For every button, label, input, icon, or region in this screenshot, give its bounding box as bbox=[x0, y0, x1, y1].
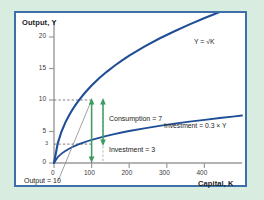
figure-background: Output, Y 20 15 10 5 0 3 0 100 200 300 4… bbox=[0, 0, 264, 200]
y-tick-15: 15 bbox=[28, 65, 46, 72]
y-tick-5: 5 bbox=[28, 128, 46, 135]
x-tick-200: 200 bbox=[122, 170, 133, 177]
x-axis-ticks bbox=[54, 163, 204, 168]
production-function-label: Y = √K bbox=[194, 39, 214, 46]
y-axis-title: Output, Y bbox=[22, 19, 57, 27]
y-tick-0: 0 bbox=[28, 159, 46, 166]
y-tick-20: 20 bbox=[28, 33, 46, 40]
investment-span-arrow bbox=[89, 98, 95, 163]
x-tick-400: 400 bbox=[197, 170, 208, 177]
y-tick-3: 3 bbox=[40, 141, 48, 146]
output-label: Output = 10 bbox=[24, 177, 61, 184]
production-function-curve bbox=[54, 13, 220, 163]
x-tick-100: 100 bbox=[84, 170, 95, 177]
x-tick-0: 0 bbox=[51, 170, 55, 177]
investment-label: Investment = 3 bbox=[109, 146, 155, 153]
x-axis-title: Capital, K bbox=[198, 180, 234, 188]
investment-function-label: Investment = 0.3 × Y bbox=[164, 123, 227, 130]
y-tick-10: 10 bbox=[28, 96, 46, 103]
y-axis-ticks bbox=[49, 37, 54, 163]
x-tick-300: 300 bbox=[159, 170, 170, 177]
chart-panel: Output, Y 20 15 10 5 0 3 0 100 200 300 4… bbox=[14, 11, 247, 187]
consumption-label: Consumption = 7 bbox=[109, 115, 162, 122]
consumption-span-arrow bbox=[100, 98, 106, 146]
